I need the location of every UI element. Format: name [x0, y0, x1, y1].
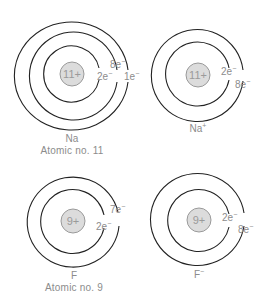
atom-f-ion: 9+ 2e− 8e− F− — [150, 174, 253, 281]
nucleus-charge: 11+ — [63, 68, 81, 80]
diagram-canvas: 11+ 8e− 2e− 1e− Na Atomic no. 11 11+ 2e−… — [0, 0, 266, 302]
atom-na: 11+ 8e− 2e− 1e− Na Atomic no. 11 — [14, 22, 139, 156]
atom-na-ion: 11+ 2e− 8e− Na+ — [151, 30, 250, 135]
nucleus-charge: 9+ — [67, 215, 80, 227]
shell-label-2e: 2e− — [96, 220, 111, 232]
shell-label-1e: 1e− — [124, 70, 139, 82]
element-symbol: F — [71, 270, 77, 281]
nucleus-charge: 9+ — [193, 214, 206, 226]
shell-label-2e: 2e− — [97, 70, 112, 82]
atom-f: 9+ 7e− 2e− F Atomic no. 9 — [27, 177, 125, 293]
shell-label-8e: 8e− — [110, 58, 125, 70]
atomic-number: Atomic no. 11 — [40, 145, 103, 156]
atomic-number: Atomic no. 9 — [45, 282, 103, 293]
shell-label-2e: 2e− — [221, 65, 236, 77]
shell-label-7e: 7e− — [110, 203, 125, 215]
shell-label-2e: 2e− — [222, 211, 237, 223]
atomic-structure-diagram: 11+ 8e− 2e− 1e− Na Atomic no. 11 11+ 2e−… — [0, 0, 266, 302]
ion-symbol: Na+ — [190, 122, 207, 134]
nucleus-charge: 11+ — [189, 69, 207, 81]
shell-label-8e: 8e− — [238, 223, 253, 235]
ion-symbol: F− — [194, 268, 204, 280]
element-symbol: Na — [66, 133, 79, 144]
shell-label-8e: 8e− — [235, 78, 250, 90]
